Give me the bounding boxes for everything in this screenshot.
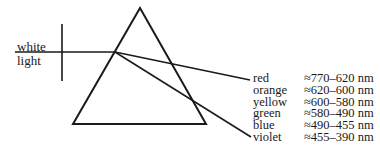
spectrum-legend: red ≈770–620 nm orange ≈620–600 nm yello… [253,73,374,144]
light-label: light [17,54,41,67]
color-name: violet [253,132,304,144]
spectrum-row-violet: violet ≈455–390 nm [253,132,374,144]
wavelength-range: ≈455–390 nm [304,132,374,144]
white-label: white [17,40,46,53]
red-ray [115,52,250,80]
